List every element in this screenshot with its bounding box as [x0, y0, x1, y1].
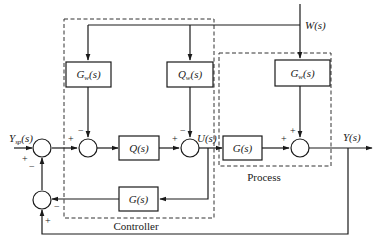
- sign-jf-model: −: [54, 201, 60, 212]
- caption-controller: Controller: [113, 220, 159, 232]
- label-disturbance: W(s): [305, 19, 326, 32]
- summing-junction-process: [291, 139, 309, 157]
- block-diagram: Gw(s) Qw(s) Gw(s) Q(s) G(s) G(s) Ysp(s) …: [0, 0, 375, 238]
- sign-j3-qw: −: [180, 125, 186, 136]
- sign-jp-main: +: [281, 133, 287, 144]
- label-g-process: G(s): [233, 142, 253, 155]
- output-feedback-line: [42, 148, 348, 234]
- summing-junction-2: [79, 139, 97, 157]
- sign-j2-gw: −: [78, 125, 84, 136]
- sign-j2-main: +: [68, 133, 74, 144]
- sign-j1-feedback: −: [29, 161, 35, 172]
- label-output: Y(s): [343, 131, 361, 144]
- label-g-model: G(s): [129, 193, 149, 206]
- label-q: Q(s): [129, 142, 149, 155]
- caption-process: Process: [247, 171, 281, 183]
- sign-jf-output: +: [45, 215, 51, 226]
- sign-j3-main: +: [172, 133, 178, 144]
- summing-junction-feedback: [33, 191, 51, 209]
- u-to-model-line: [160, 148, 208, 199]
- sign-j1-setpoint: +: [22, 153, 28, 164]
- label-gw-process: Gw(s): [290, 67, 315, 81]
- label-setpoint: Ysp(s): [9, 132, 33, 146]
- label-control-signal: U(s): [197, 132, 217, 145]
- label-qw: Qw(s): [178, 68, 203, 82]
- sign-jp-gw: +: [290, 125, 296, 136]
- summing-junction-1: [33, 139, 51, 157]
- label-gw-controller: Gw(s): [76, 68, 101, 82]
